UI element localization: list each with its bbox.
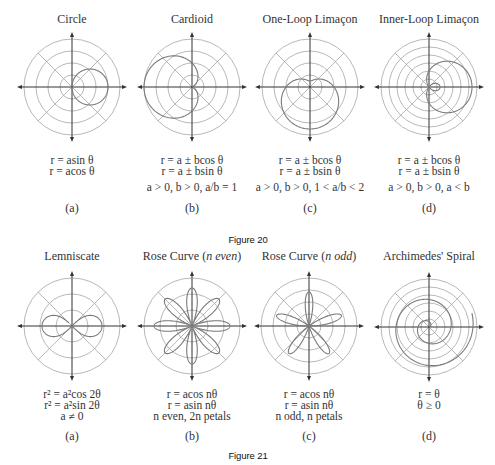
panel-title-rose-odd: Rose Curve (n odd) <box>262 250 356 262</box>
polar-plot-archimedes-spiral <box>379 271 479 383</box>
polar-plot-cardioid <box>142 31 242 143</box>
condition: a > 0, b > 0, a/b = 1 <box>147 182 237 194</box>
condition: a > 0, b > 0, a < b <box>388 182 469 194</box>
panel-label: (b) <box>185 430 199 442</box>
figure-caption-21: Figure 21 <box>228 451 267 461</box>
equation: r = a ± bsin θ <box>399 166 460 178</box>
panel-label: (a) <box>65 202 78 214</box>
panel-label: (c) <box>303 202 316 214</box>
equation: r = a ± bsin θ <box>280 166 341 178</box>
panel-title-rose-even: Rose Curve (n even) <box>143 250 241 262</box>
condition: n even, 2n petals <box>153 411 230 423</box>
panel-title-circle: Circle <box>57 13 86 25</box>
panel-label: (d) <box>422 202 436 214</box>
panel-label: (d) <box>422 430 436 442</box>
equation: r = a ± bsin θ <box>162 166 223 178</box>
figure-caption-20: Figure 20 <box>228 235 267 245</box>
condition: a > 0, b > 0, 1 < a/b < 2 <box>256 182 364 194</box>
panel-title-archimedes-spiral: Archimedes' Spiral <box>383 250 475 262</box>
panel-title-lemniscate: Lemniscate <box>44 250 99 262</box>
panel-label: (b) <box>185 202 199 214</box>
panel-label: (c) <box>302 430 315 442</box>
polar-plot-lemniscate <box>22 270 122 382</box>
equation: a ≠ 0 <box>61 411 84 423</box>
panel-title-inner-loop-limacon: Inner-Loop Limaçon <box>379 13 479 25</box>
polar-plot-circle <box>22 31 122 143</box>
panel-title-cardioid: Cardioid <box>171 13 213 25</box>
polar-plot-inner-loop-limacon <box>379 31 479 143</box>
polar-plot-one-loop-limacon <box>260 31 360 143</box>
polar-plot-rose-odd <box>259 270 359 382</box>
equation: r = acos θ <box>50 166 95 178</box>
condition: n odd, n petals <box>275 411 342 423</box>
polar-plot-rose-even <box>142 270 242 382</box>
panel-label: (a) <box>65 430 78 442</box>
condition: θ ≥ 0 <box>417 400 440 412</box>
panel-title-one-loop-limacon: One-Loop Limaçon <box>263 13 358 25</box>
